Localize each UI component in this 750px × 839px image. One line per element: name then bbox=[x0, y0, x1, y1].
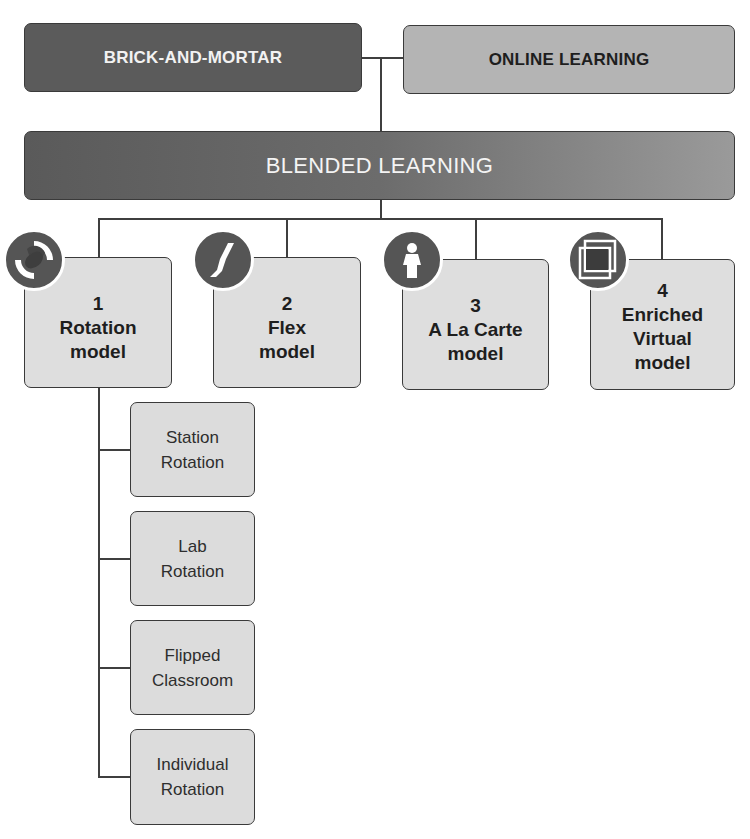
model-title-line: Enriched bbox=[622, 303, 703, 327]
connector-top-vertical bbox=[380, 57, 382, 131]
brick-and-mortar-label: BRICK-AND-MORTAR bbox=[104, 48, 283, 68]
connector-submodel-3 bbox=[98, 667, 130, 669]
connector-model-4-drop bbox=[661, 218, 663, 260]
model-title-line: model bbox=[448, 342, 504, 366]
brick-and-mortar-box: BRICK-AND-MORTAR bbox=[24, 23, 362, 92]
connector-submodel-4 bbox=[98, 776, 130, 778]
submodel-label-line: Classroom bbox=[152, 668, 233, 693]
flex-path-icon bbox=[192, 229, 254, 291]
model-title-line: model bbox=[259, 340, 315, 364]
model-title-line: model bbox=[70, 340, 126, 364]
submodel-station-rotation: Station Rotation bbox=[130, 402, 255, 497]
connector-models-horizontal bbox=[98, 218, 663, 220]
submodel-label-line: Individual bbox=[157, 752, 229, 777]
connector-submodel-2 bbox=[98, 558, 130, 560]
model-number: 2 bbox=[282, 292, 293, 316]
model-title-line: Flex bbox=[268, 316, 306, 340]
overlapping-squares-icon bbox=[567, 229, 629, 291]
blended-learning-box: BLENDED LEARNING bbox=[24, 131, 735, 200]
model-title-line: A La Carte bbox=[428, 318, 522, 342]
connector-model-2-drop bbox=[286, 218, 288, 258]
model-number: 3 bbox=[470, 294, 481, 318]
connector-model-3-drop bbox=[475, 218, 477, 260]
submodel-individual-rotation: Individual Rotation bbox=[130, 729, 255, 825]
online-learning-label: ONLINE LEARNING bbox=[489, 50, 650, 70]
submodel-label-line: Lab bbox=[178, 534, 206, 559]
submodel-label-line: Flipped bbox=[165, 643, 221, 668]
submodel-flipped-classroom: Flipped Classroom bbox=[130, 620, 255, 715]
connector-submodels-vertical bbox=[98, 388, 100, 777]
online-learning-box: ONLINE LEARNING bbox=[403, 25, 735, 94]
person-icon bbox=[381, 229, 443, 291]
model-number: 4 bbox=[657, 279, 668, 303]
connector-model-1-drop bbox=[98, 218, 100, 258]
submodel-label-line: Rotation bbox=[161, 777, 224, 802]
model-title-line: model bbox=[635, 351, 691, 375]
connector-top-horizontal bbox=[362, 57, 403, 59]
submodel-lab-rotation: Lab Rotation bbox=[130, 511, 255, 606]
submodel-label-line: Station bbox=[166, 425, 219, 450]
rotation-arrows-icon bbox=[3, 229, 65, 291]
blended-learning-label: BLENDED LEARNING bbox=[266, 153, 493, 179]
connector-submodel-1 bbox=[98, 449, 130, 451]
model-title-line: Rotation bbox=[59, 316, 136, 340]
model-title-line: Virtual bbox=[633, 327, 692, 351]
submodel-label-line: Rotation bbox=[161, 559, 224, 584]
submodel-label-line: Rotation bbox=[161, 450, 224, 475]
connector-blended-down bbox=[380, 199, 382, 219]
model-number: 1 bbox=[93, 292, 104, 316]
